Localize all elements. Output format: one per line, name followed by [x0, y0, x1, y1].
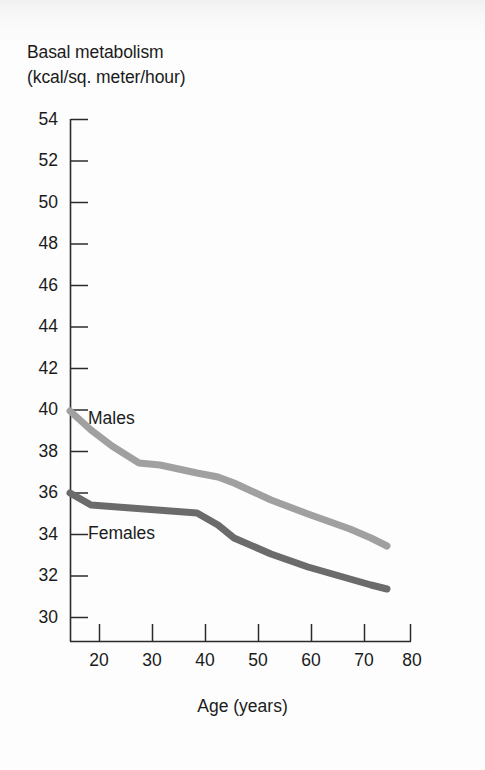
- series-annotation-males: Males: [88, 408, 135, 429]
- x-axis-title: Age (years): [0, 696, 485, 717]
- series-annotation-females: Females: [88, 523, 155, 544]
- plot-area: [0, 0, 485, 770]
- basal-metabolism-line-chart: Basal metabolism(kcal/sq. meter/hour) 54…: [0, 0, 485, 770]
- y-axis-ticks: [71, 120, 88, 618]
- x-axis-ticks: [100, 624, 411, 641]
